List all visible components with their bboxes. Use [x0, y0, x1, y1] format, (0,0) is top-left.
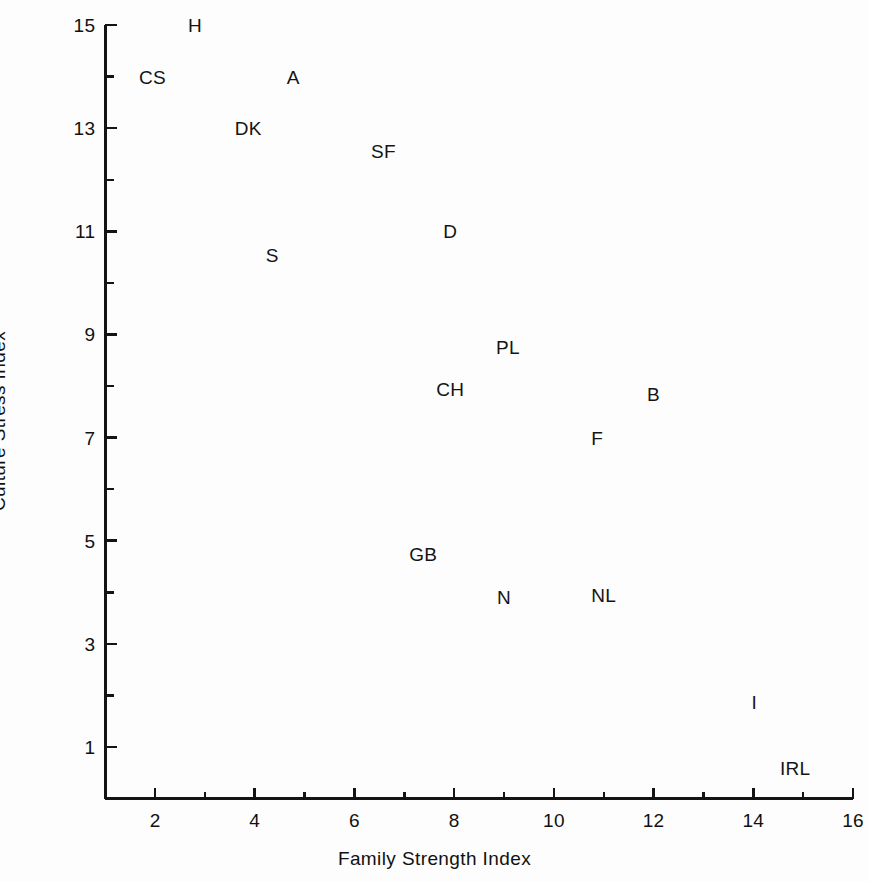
axes-and-ticks: [0, 0, 869, 882]
x-tick-label: 6: [349, 811, 360, 830]
data-point-f: F: [591, 428, 603, 447]
data-point-ch: CH: [436, 379, 464, 398]
x-tick-label: 8: [449, 811, 460, 830]
data-point-s: S: [266, 245, 279, 264]
data-point-cs: CS: [139, 67, 166, 86]
y-tick-label: 11: [75, 222, 95, 241]
data-point-gb: GB: [409, 544, 437, 563]
y-tick-label: 13: [74, 119, 96, 138]
y-tick-label: 9: [84, 325, 95, 344]
x-tick-label: 12: [643, 811, 665, 830]
data-point-sf: SF: [371, 142, 396, 161]
data-point-a: A: [287, 67, 300, 86]
data-point-b: B: [647, 384, 660, 403]
y-tick-label: 3: [84, 634, 95, 653]
y-axis-title: Culture Stress Index: [0, 331, 10, 511]
x-axis-title: Family Strength Index: [0, 848, 869, 870]
x-tick-label: 4: [249, 811, 260, 830]
y-tick-label: 15: [74, 16, 96, 35]
x-tick-label: 14: [743, 811, 765, 830]
data-point-h: H: [188, 16, 202, 35]
data-point-nl: NL: [591, 585, 616, 604]
scatter-plot-figure: 13579111315 246810121416 HCSADKSFDSPLCHB…: [0, 0, 869, 882]
data-point-n: N: [497, 588, 511, 607]
x-tick-label: 16: [842, 811, 864, 830]
y-tick-label: 5: [84, 531, 95, 550]
data-point-dk: DK: [235, 119, 262, 138]
x-tick-label: 2: [150, 811, 161, 830]
x-tick-label: 10: [543, 811, 565, 830]
data-point-i: I: [752, 693, 758, 712]
data-point-irl: IRL: [780, 758, 810, 777]
data-point-d: D: [443, 222, 457, 241]
y-tick-label: 7: [84, 428, 95, 447]
data-point-pl: PL: [496, 338, 520, 357]
plot-area: 13579111315 246810121416 HCSADKSFDSPLCHB…: [0, 0, 869, 882]
y-tick-label: 1: [84, 738, 95, 757]
